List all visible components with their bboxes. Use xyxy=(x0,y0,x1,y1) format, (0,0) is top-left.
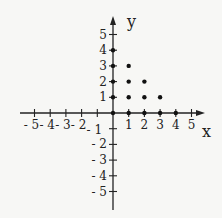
y-axis-arrow xyxy=(110,16,116,25)
y-tick-label: 2 xyxy=(99,75,107,89)
x-tick-label: 3 xyxy=(156,118,164,132)
data-point xyxy=(127,79,131,83)
x-tick-label: 1 xyxy=(125,118,133,132)
axis-dot xyxy=(142,111,146,115)
x-tick-label: - 2 xyxy=(71,118,87,132)
x-tick-label: - 4 xyxy=(39,118,55,132)
x-tick-label: 2 xyxy=(141,118,149,132)
axis-dot xyxy=(111,95,115,99)
x-tick-label: - 1 xyxy=(87,123,103,137)
axis-dot xyxy=(174,111,178,115)
y-tick-label: - 4 xyxy=(91,169,107,183)
y-tick-label: 3 xyxy=(99,59,107,73)
data-point xyxy=(127,64,131,68)
x-tick-label: - 5 xyxy=(24,118,40,132)
data-point xyxy=(158,95,162,99)
axis-dot xyxy=(111,64,115,68)
x-tick-label: - 3 xyxy=(55,118,71,132)
x-tick-label: 5 xyxy=(188,118,196,132)
y-tick-label: - 2 xyxy=(91,137,107,151)
axis-dot xyxy=(111,48,115,52)
data-point xyxy=(142,95,146,99)
axis-dot xyxy=(111,79,115,83)
axis-dot xyxy=(111,111,115,115)
x-tick-label: 4 xyxy=(172,118,180,132)
y-tick-label: - 5 xyxy=(91,185,107,199)
x-axis-label: x xyxy=(202,122,211,141)
y-axis-label: y xyxy=(126,12,136,31)
y-tick-label: - 3 xyxy=(91,153,107,167)
data-point xyxy=(127,95,131,99)
y-tick-label: 5 xyxy=(99,28,107,42)
y-tick-label: 4 xyxy=(99,43,107,57)
data-point xyxy=(142,79,146,83)
axis-dot xyxy=(127,111,131,115)
y-tick-label: 1 xyxy=(99,90,107,104)
axis-dot xyxy=(158,111,162,115)
x-axis-arrow xyxy=(196,110,205,116)
coordinate-plane: - 5- 4- 3- 2- 112345- 5- 4- 3- 212345 x … xyxy=(0,0,222,218)
